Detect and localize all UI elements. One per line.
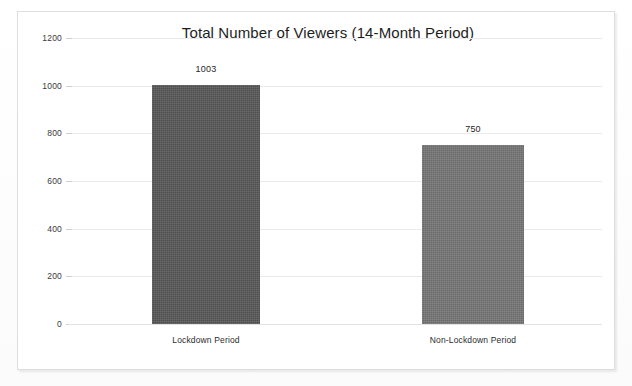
y-axis-tick: 1200 xyxy=(18,33,62,43)
y-axis-tick: 800 xyxy=(18,128,62,138)
x-axis-category-label: Lockdown Period xyxy=(126,335,286,345)
y-axis-tick: 600 xyxy=(18,176,62,186)
y-axis-tick: 200 xyxy=(18,271,62,281)
bar-value-label: 1003 xyxy=(166,64,246,74)
y-axis-tick-label: 0 xyxy=(28,319,62,329)
y-axis-tick-label: 800 xyxy=(28,128,62,138)
y-gridline xyxy=(68,86,602,87)
y-axis-tick: 1000 xyxy=(18,81,62,91)
y-axis-tick-mark xyxy=(66,229,72,230)
y-axis-tick-mark xyxy=(66,133,72,134)
y-axis-tick-mark xyxy=(66,181,72,182)
y-gridline xyxy=(68,133,602,134)
bar-chart-plot-area: Total Number of Viewers (14-Month Period… xyxy=(18,12,616,371)
x-axis-baseline xyxy=(68,324,602,325)
bar-value-label: 750 xyxy=(433,124,513,134)
screenshot-canvas: Total Number of Viewers (14-Month Period… xyxy=(0,0,632,386)
y-axis-tick-label: 400 xyxy=(28,224,62,234)
y-axis-tick-mark xyxy=(66,276,72,277)
y-axis-tick-label: 200 xyxy=(28,271,62,281)
x-axis-category-label: Non-Lockdown Period xyxy=(393,335,553,345)
y-axis-tick: 400 xyxy=(18,224,62,234)
y-axis-tick-label: 1000 xyxy=(28,81,62,91)
bar-lockdown-period[interactable] xyxy=(152,85,260,324)
y-axis-tick-label: 1200 xyxy=(28,33,62,43)
bar-non-lockdown-period[interactable] xyxy=(422,145,524,324)
chart-frame: Total Number of Viewers (14-Month Period… xyxy=(17,11,615,370)
y-axis-tick-mark xyxy=(66,38,72,39)
y-axis-tick-mark xyxy=(66,86,72,87)
y-axis-tick: 0 xyxy=(18,319,62,329)
y-gridline xyxy=(68,38,602,39)
y-axis-tick-label: 600 xyxy=(28,176,62,186)
